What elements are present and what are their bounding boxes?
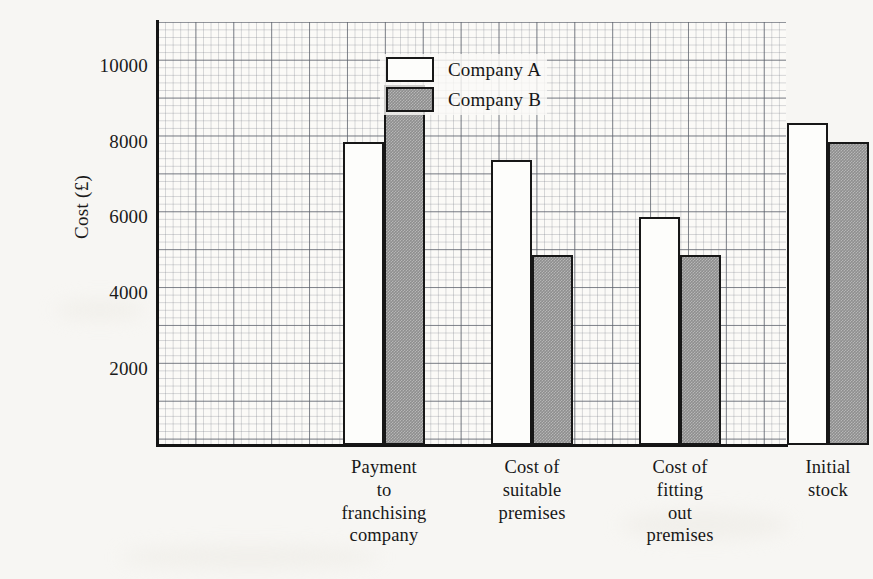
y-axis-line xyxy=(156,20,159,447)
legend-item-company-b: Company B xyxy=(386,87,541,112)
x-category-label: Cost ofsuitablepremises xyxy=(452,456,612,524)
y-tick-label: 10000 xyxy=(56,55,148,77)
legend-label-company-a: Company A xyxy=(448,59,541,81)
bar-company-b xyxy=(384,85,425,445)
bar-company-a xyxy=(343,142,384,445)
y-tick-label: 6000 xyxy=(56,206,148,228)
y-tick-label: 2000 xyxy=(56,358,148,380)
bar-company-b xyxy=(828,142,869,445)
legend-swatch-company-a xyxy=(386,57,434,82)
plot-area: Company A Company B xyxy=(158,22,786,445)
chart-legend: Company A Company B xyxy=(380,54,547,115)
legend-swatch-company-b xyxy=(386,87,434,112)
legend-label-company-b: Company B xyxy=(448,89,541,111)
paper-blotch xyxy=(120,545,380,569)
bar-company-a xyxy=(787,123,828,445)
bar-company-a xyxy=(639,217,680,445)
y-tick-label: 4000 xyxy=(56,282,148,304)
x-category-label: Cost offittingoutpremises xyxy=(600,456,760,547)
bar-company-a xyxy=(491,160,532,445)
bar-company-b xyxy=(680,255,721,445)
y-axis-tick-labels: 200040006000800010000 xyxy=(52,0,148,579)
x-category-label: Initialstock xyxy=(748,456,873,502)
x-category-label: Paymenttofranchisingcompany xyxy=(304,456,464,547)
bar-company-b xyxy=(532,255,573,445)
legend-item-company-a: Company A xyxy=(386,57,541,82)
y-tick-label: 8000 xyxy=(56,131,148,153)
